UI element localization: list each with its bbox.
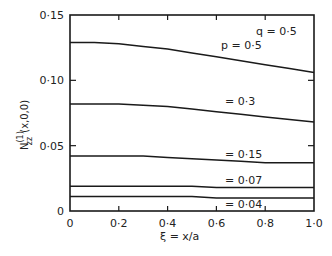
line-chart: 00·20·40·60·81·000·050·100·15 q = 0·5 p … bbox=[0, 0, 332, 256]
data-series bbox=[70, 42, 314, 198]
x-axis-label: ξ = x/a bbox=[160, 230, 199, 243]
series-line bbox=[70, 42, 314, 72]
annotation-p03: = 0·3 bbox=[225, 95, 255, 108]
series-line bbox=[70, 104, 314, 122]
annotation-q: q = 0·5 bbox=[256, 25, 297, 38]
series-line bbox=[70, 156, 314, 163]
y-tick-label: 0 bbox=[57, 205, 64, 218]
y-tick-label: 0·10 bbox=[40, 74, 65, 87]
y-tick-label: 0·15 bbox=[40, 9, 65, 22]
series-line bbox=[70, 186, 314, 187]
y-tick-label: 0·05 bbox=[40, 140, 65, 153]
annotation-p05: p = 0·5 bbox=[221, 39, 262, 52]
annotation-p007: = 0·07 bbox=[225, 174, 262, 187]
plot-frame bbox=[70, 15, 314, 211]
svg-text:N(1)zz(x,0,0): N(1)zz(x,0,0) bbox=[16, 100, 34, 150]
x-tick-label: 0·2 bbox=[110, 217, 128, 230]
y-axis-label: N(1)zz(x,0,0) bbox=[16, 100, 34, 150]
x-tick-label: 0·6 bbox=[208, 217, 226, 230]
series-line bbox=[70, 197, 314, 198]
annotation-p015: = 0·15 bbox=[225, 148, 262, 161]
x-tick-label: 0 bbox=[67, 217, 74, 230]
x-tick-label: 1·0 bbox=[305, 217, 323, 230]
x-tick-label: 0·4 bbox=[159, 217, 177, 230]
annotation-p004: = 0·04 bbox=[225, 198, 262, 211]
x-tick-label: 0·8 bbox=[256, 217, 274, 230]
